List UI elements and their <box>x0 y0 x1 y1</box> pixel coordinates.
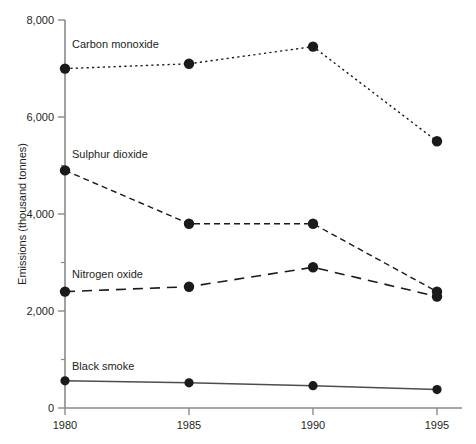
data-point-carbon-monoxide-1990 <box>308 41 318 51</box>
y-axis-title: Emissions (thousand tonnes) <box>16 143 28 285</box>
data-point-sulphur-dioxide-1980 <box>60 165 70 175</box>
series-line-black-smoke <box>65 381 437 390</box>
data-point-carbon-monoxide-1995 <box>432 136 442 146</box>
x-tick-label-1995: 1995 <box>425 419 449 431</box>
y-tick-label-6000: 6,000 <box>26 111 54 123</box>
data-point-nitrogen-oxide-1985 <box>184 282 194 292</box>
series-label-black-smoke: Black smoke <box>72 360 134 372</box>
chart-svg: 0 2,000 4,000 6,000 8,000 1980 1985 1990… <box>0 0 476 444</box>
data-point-black-smoke-1990 <box>308 381 317 390</box>
y-tick-label-4000: 4,000 <box>26 208 54 220</box>
series-label-nitrogen-oxide: Nitrogen oxide <box>72 268 143 280</box>
data-point-nitrogen-oxide-1990 <box>308 262 318 272</box>
data-point-black-smoke-1980 <box>60 376 69 385</box>
y-tick-label-0: 0 <box>48 402 54 414</box>
x-tick-label-1985: 1985 <box>177 419 201 431</box>
y-tick-label-2000: 2,000 <box>26 305 54 317</box>
data-point-sulphur-dioxide-1985 <box>184 219 194 229</box>
data-point-black-smoke-1995 <box>432 385 441 394</box>
x-tick-label-1980: 1980 <box>53 419 77 431</box>
series-label-sulphur-dioxide: Sulphur dioxide <box>72 148 148 160</box>
x-tick-label-1990: 1990 <box>301 419 325 431</box>
data-point-carbon-monoxide-1980 <box>60 63 70 73</box>
series-label-carbon-monoxide: Carbon monoxide <box>72 38 159 50</box>
data-point-carbon-monoxide-1985 <box>184 59 194 69</box>
emissions-line-chart: 0 2,000 4,000 6,000 8,000 1980 1985 1990… <box>0 0 476 444</box>
data-point-black-smoke-1985 <box>184 378 193 387</box>
series-line-carbon-monoxide <box>65 47 437 142</box>
data-point-nitrogen-oxide-1995 <box>432 291 442 301</box>
data-point-sulphur-dioxide-1990 <box>308 219 318 229</box>
data-point-nitrogen-oxide-1980 <box>60 286 70 296</box>
y-tick-label-8000: 8,000 <box>26 14 54 26</box>
